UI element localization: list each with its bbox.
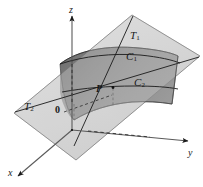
point-p-marker (112, 86, 115, 89)
label-origin: 0 (55, 105, 60, 115)
label-curve-c1: C1 (126, 51, 137, 63)
label-x-axis: x (8, 168, 12, 178)
label-y-axis: y (188, 148, 192, 158)
label-tangent-line-t2: T2 (24, 101, 34, 113)
label-z-axis: z (69, 5, 73, 15)
tangent-plane-figure: T1 C1 C2 T2 P 0 z y x (0, 0, 203, 187)
origin-marker (71, 129, 73, 131)
label-tangent-line-t1: T1 (130, 30, 140, 42)
label-curve-c2: C2 (134, 77, 145, 89)
label-point-p: P (96, 84, 102, 94)
